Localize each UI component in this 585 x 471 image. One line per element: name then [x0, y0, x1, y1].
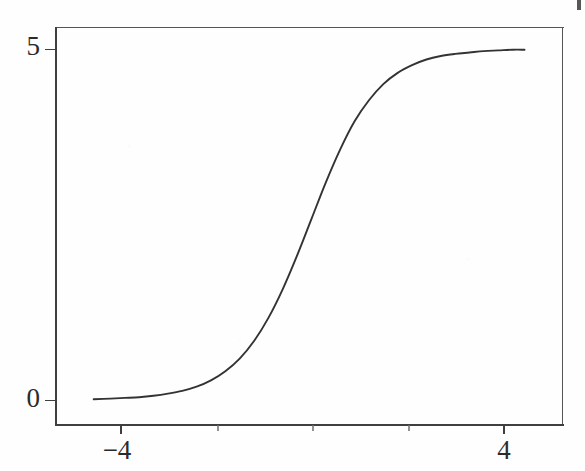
x-tick-0 — [312, 425, 314, 431]
scan-artifact-mark — [577, 0, 581, 10]
y-tick-0 — [45, 400, 55, 402]
plot-frame-right — [562, 27, 563, 426]
y-tick-label-0: 0 — [0, 385, 40, 412]
x-tick-2 — [408, 425, 410, 431]
y-tick-label-5: 5 — [0, 33, 40, 60]
y-tick-5 — [45, 49, 55, 51]
sigmoid-curve — [94, 50, 525, 400]
x-axis-line — [55, 424, 564, 426]
paper-grain-overlay — [0, 0, 585, 471]
x-tick-label-minus4: −4 — [77, 437, 157, 464]
plot-area — [0, 0, 585, 471]
x-tick-minus4 — [120, 425, 122, 434]
y-axis-line — [55, 27, 57, 426]
x-tick-label-4: 4 — [464, 437, 544, 464]
figure-canvas: 5 0 −4 4 — [0, 0, 585, 471]
plot-frame-top — [55, 27, 564, 28]
x-tick-4 — [503, 425, 505, 434]
x-tick-minus2 — [217, 425, 219, 431]
